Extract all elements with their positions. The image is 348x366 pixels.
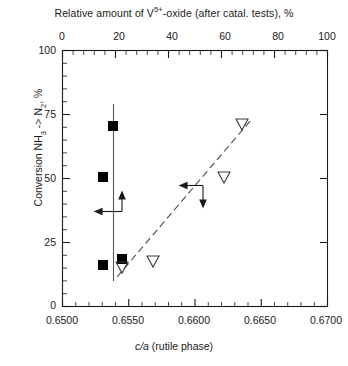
top-axis-minor-ticks	[73, 51, 317, 56]
left-arrow-head-triangles	[180, 183, 187, 189]
dashed-trend-line	[117, 120, 251, 277]
square-series-arrows	[95, 192, 125, 215]
square-point-3	[98, 260, 108, 270]
figure-container: Relative amount of V5+-oxide (after cata…	[0, 0, 348, 366]
triangle-point-1	[236, 119, 248, 130]
left-arrow-head-squares	[95, 209, 102, 215]
square-point-2	[98, 172, 108, 182]
open-triangle-markers	[116, 119, 248, 273]
triangle-point-3	[147, 256, 159, 267]
square-point-1	[108, 121, 118, 131]
right-axis-major-ticks	[320, 51, 328, 307]
triangle-point-2	[218, 172, 230, 183]
plot-canvas	[0, 0, 348, 366]
triangle-series-arrows	[180, 183, 206, 208]
down-arrow-head-triangles	[200, 200, 206, 207]
up-arrow-head-squares	[119, 192, 125, 199]
top-axis-major-ticks	[63, 51, 328, 59]
